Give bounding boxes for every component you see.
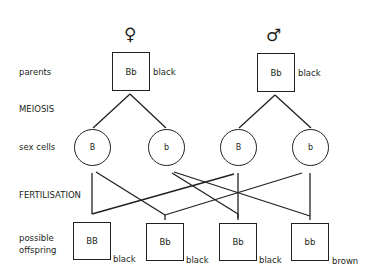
offspring-genotype: BB	[86, 236, 98, 246]
row-label-meiosis: MEIOSIS	[19, 104, 54, 114]
offspring-box-4: bb	[291, 223, 329, 261]
female-symbol-icon: ♀	[124, 26, 136, 43]
row-label-parents: parents	[19, 67, 51, 77]
offspring-box-2: Bb	[146, 223, 184, 261]
row-label-offspring-1: possible	[19, 233, 54, 243]
row-label-sex-cells: sex cells	[19, 142, 55, 152]
offspring-phenotype-2: black	[186, 255, 209, 265]
sex-cell-male-b: b	[292, 129, 329, 166]
row-label-fertilisation: FERTILISATION	[19, 190, 81, 200]
female-parent-box: Bb	[112, 52, 150, 91]
male-genotype: Bb	[270, 68, 281, 78]
row-label-offspring-2: offspring	[19, 245, 57, 255]
offspring-genotype: Bb	[232, 237, 243, 247]
allele-label: b	[308, 143, 313, 152]
offspring-box-1: BB	[73, 222, 111, 260]
sex-cell-female-B: B	[74, 129, 111, 166]
male-parent-box: Bb	[257, 53, 295, 92]
sex-cell-female-b: b	[148, 129, 185, 166]
offspring-phenotype-3: black	[259, 255, 282, 265]
female-genotype: Bb	[125, 67, 136, 77]
male-symbol-icon: ♂	[266, 27, 281, 44]
offspring-box-3: Bb	[219, 223, 257, 261]
allele-label: B	[236, 143, 242, 152]
female-phenotype: black	[153, 67, 176, 77]
sex-cell-male-B: B	[220, 129, 257, 166]
offspring-phenotype-1: black	[113, 254, 136, 264]
male-phenotype: black	[298, 68, 321, 78]
offspring-phenotype-4: brown	[332, 256, 358, 266]
offspring-genotype: Bb	[159, 237, 170, 247]
allele-label: B	[90, 143, 96, 152]
offspring-genotype: bb	[305, 237, 316, 247]
allele-label: b	[164, 143, 169, 152]
